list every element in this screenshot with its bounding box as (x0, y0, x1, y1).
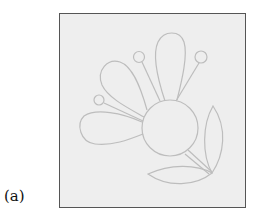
stem-inner (185, 154, 209, 174)
stamen-upper-tip (134, 52, 145, 63)
petal-upper-left (100, 61, 147, 117)
leaf-right (205, 106, 223, 173)
stamen-left-tip (94, 95, 104, 105)
stamen-upper-line (142, 62, 160, 101)
flower-center-circle (142, 100, 198, 156)
stamen-right-line (176, 63, 199, 101)
leaf-bottom (148, 166, 212, 183)
stamen-right-tip (195, 51, 207, 63)
petal-top (156, 33, 186, 101)
flower-drawing (0, 0, 259, 220)
